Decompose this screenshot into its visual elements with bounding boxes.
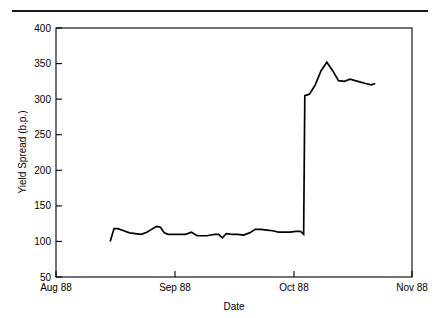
- x-tick-label-aug: Aug 88: [40, 282, 72, 293]
- x-tick-label-sep: Sep 88: [159, 282, 191, 293]
- y-axis-title: Yield Spread (b.p.): [17, 110, 28, 193]
- y-axis-tick-labels: 400 350 300 250 200 150 100 50: [34, 23, 51, 283]
- y-tick-label-200: 200: [34, 165, 51, 176]
- x-axis-title: Date: [223, 301, 245, 312]
- x-tick-label-nov: Nov 88: [396, 282, 428, 293]
- y-tick-label-100: 100: [34, 236, 51, 247]
- chart-plot-area: 400 350 300 250 200 150 100 50 Aug 88 Se…: [0, 0, 440, 318]
- y-tick-label-400: 400: [34, 23, 51, 34]
- y-tick-label-150: 150: [34, 200, 51, 211]
- y-axis-ticks: [56, 28, 62, 277]
- y-tick-label-250: 250: [34, 129, 51, 140]
- x-axis-ticks: [56, 271, 412, 277]
- x-axis-tick-labels: Aug 88 Sep 88 Oct 88 Nov 88: [40, 282, 428, 293]
- y-tick-label-50: 50: [40, 272, 52, 283]
- yield-spread-line: [110, 62, 375, 241]
- y-tick-label-300: 300: [34, 94, 51, 105]
- plot-frame: [56, 28, 412, 277]
- figure-container: 400 350 300 250 200 150 100 50 Aug 88 Se…: [0, 0, 440, 318]
- x-tick-label-oct: Oct 88: [279, 282, 309, 293]
- y-tick-label-350: 350: [34, 58, 51, 69]
